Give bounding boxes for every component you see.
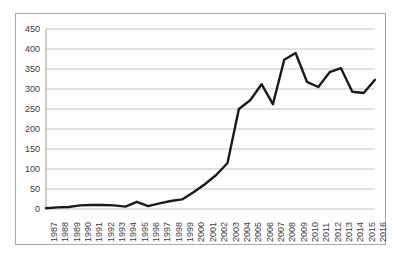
- x-axis-tick-label: 1990: [84, 222, 93, 242]
- x-axis-tick-label: 2007: [277, 222, 286, 242]
- x-axis-tick-label: 2001: [209, 222, 218, 242]
- x-axis-tick-label: 2005: [254, 222, 263, 242]
- y-axis-tick-label: 0: [14, 205, 40, 214]
- line-chart-figure: 050100150200250300350400450 198719881989…: [0, 0, 403, 256]
- y-axis-tick-label: 450: [14, 25, 40, 34]
- x-axis-tick-label: 1993: [118, 222, 127, 242]
- y-axis-tick-label: 150: [14, 145, 40, 154]
- x-axis-tick-label: 2009: [300, 222, 309, 242]
- x-axis-tick-label: 2008: [288, 222, 297, 242]
- x-axis-tick-label: 1998: [175, 222, 184, 242]
- x-axis-tick-label: 2015: [368, 222, 377, 242]
- y-axis-tick-label: 50: [14, 185, 40, 194]
- x-axis-tick-label: 2012: [334, 222, 343, 242]
- x-axis-tick-label: 2013: [345, 222, 354, 242]
- y-axis-tick-label: 300: [14, 85, 40, 94]
- chart-plot-area: [0, 0, 403, 256]
- x-axis-tick-label: 1988: [61, 222, 70, 242]
- x-axis-tick-label: 2003: [232, 222, 241, 242]
- data-series-line: [46, 53, 375, 208]
- x-axis-tick-label: 2000: [197, 222, 206, 242]
- x-axis-tick-label: 2002: [220, 222, 229, 242]
- x-axis-tick-label: 1992: [107, 222, 116, 242]
- x-axis-tick-label: 1994: [129, 222, 138, 242]
- y-axis-tick-label: 200: [14, 125, 40, 134]
- x-axis-tick-label: 1995: [141, 222, 150, 242]
- x-axis-tick-label: 1997: [163, 222, 172, 242]
- x-axis-tick-label: 1989: [73, 222, 82, 242]
- x-axis-tick-label: 2006: [266, 222, 275, 242]
- y-axis-tick-label: 250: [14, 105, 40, 114]
- y-axis-tick-label: 400: [14, 45, 40, 54]
- y-axis-tick-label: 100: [14, 165, 40, 174]
- x-axis-tick-label: 2010: [311, 222, 320, 242]
- x-axis-tick-label: 2014: [356, 222, 365, 242]
- gridlines-group: [46, 29, 375, 209]
- x-axis-tick-label: 2004: [243, 222, 252, 242]
- x-axis-tick-label: 1987: [50, 222, 59, 242]
- x-axis-tick-label: 1999: [186, 222, 195, 242]
- x-axis-tick-label: 2011: [322, 223, 331, 242]
- x-axis-tick-label: 1996: [152, 222, 161, 242]
- x-axis-tick-label: 2016: [379, 222, 388, 242]
- y-axis-tick-label: 350: [14, 65, 40, 74]
- x-axis-tick-label: 1991: [95, 222, 104, 242]
